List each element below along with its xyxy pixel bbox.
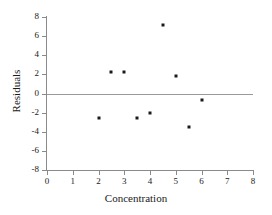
y-tick-label: -6 [25, 146, 39, 155]
x-tick-label: 8 [246, 177, 260, 186]
data-point [110, 71, 113, 74]
x-tick-label: 2 [92, 177, 106, 186]
x-tick [73, 171, 74, 175]
x-tick [47, 171, 48, 175]
y-tick-label: 4 [25, 50, 39, 59]
x-tick [202, 171, 203, 175]
y-tick [42, 74, 46, 75]
y-tick [42, 55, 46, 56]
data-point [174, 75, 177, 78]
data-point [97, 117, 100, 120]
y-tick-label: 8 [25, 12, 39, 21]
x-tick-label: 6 [195, 177, 209, 186]
x-tick [176, 171, 177, 175]
y-tick-label: -4 [25, 127, 39, 136]
data-point [136, 117, 139, 120]
y-tick [42, 170, 46, 171]
y-axis-title: Residuals [10, 36, 22, 146]
residual-scatter-plot: 86420-2-4-6-8 012345678 Concentration Re… [0, 0, 272, 215]
x-axis-title: Concentration [0, 192, 272, 204]
x-tick-label: 5 [169, 177, 183, 186]
y-tick-label: 0 [25, 89, 39, 98]
x-tick-label: 0 [40, 177, 54, 186]
y-tick [42, 132, 46, 133]
y-tick-label: 6 [25, 31, 39, 40]
x-tick [150, 171, 151, 175]
y-tick-label: 2 [25, 69, 39, 78]
y-tick [42, 94, 46, 95]
x-tick-label: 1 [66, 177, 80, 186]
data-point [149, 111, 152, 114]
y-tick [42, 151, 46, 152]
y-tick-label: -2 [25, 108, 39, 117]
x-tick [124, 171, 125, 175]
plot-area [47, 17, 253, 170]
data-point [200, 99, 203, 102]
data-point [187, 125, 190, 128]
x-tick [99, 171, 100, 175]
y-tick [42, 36, 46, 37]
x-tick-label: 7 [220, 177, 234, 186]
x-tick [227, 171, 228, 175]
x-tick-label: 3 [117, 177, 131, 186]
data-point [161, 23, 164, 26]
y-tick [42, 113, 46, 114]
data-point [123, 71, 126, 74]
y-tick-label: -8 [25, 165, 39, 174]
x-tick [253, 171, 254, 175]
y-tick [42, 17, 46, 18]
x-tick-label: 4 [143, 177, 157, 186]
